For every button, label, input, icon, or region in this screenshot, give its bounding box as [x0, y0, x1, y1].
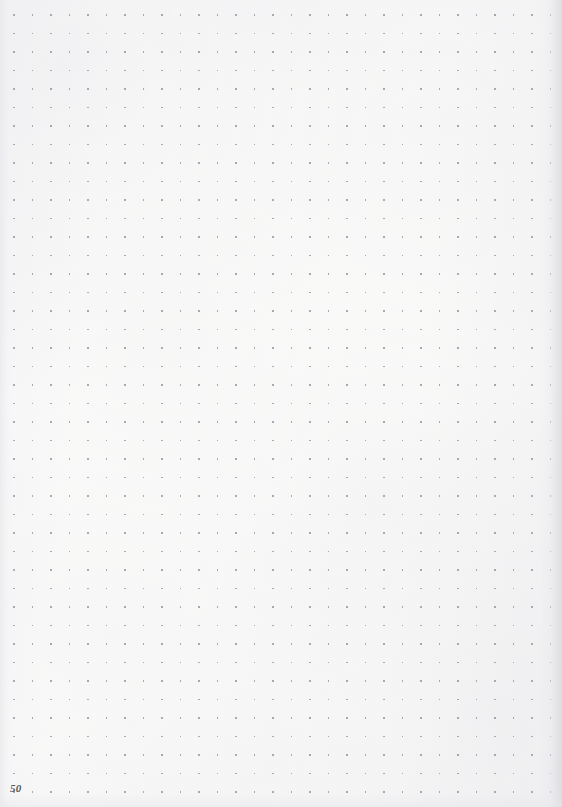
grid-dot — [124, 255, 126, 257]
grid-dot — [198, 514, 200, 516]
grid-dot — [87, 199, 89, 201]
grid-dot — [439, 773, 441, 775]
grid-dot — [309, 662, 311, 664]
grid-dot — [180, 384, 182, 386]
grid-dot — [420, 70, 422, 72]
grid-dot — [291, 717, 293, 719]
grid-dot — [180, 51, 182, 53]
grid-dot — [13, 329, 15, 331]
grid-dot — [143, 366, 145, 368]
grid-dot — [513, 181, 515, 183]
grid-dot — [420, 347, 422, 349]
grid-dot — [13, 292, 15, 294]
grid-dot — [143, 125, 145, 127]
grid-dot — [161, 625, 163, 627]
grid-dot — [217, 125, 219, 127]
grid-dot — [124, 144, 126, 146]
grid-dot — [457, 458, 459, 460]
grid-dot — [402, 347, 404, 349]
grid-dot — [198, 458, 200, 460]
grid-dot — [513, 199, 515, 201]
grid-dot — [365, 199, 367, 201]
grid-dot — [291, 625, 293, 627]
grid-dot — [198, 736, 200, 738]
grid-dot — [143, 347, 145, 349]
grid-dot — [161, 458, 163, 460]
grid-dot — [50, 255, 52, 257]
grid-dot — [50, 218, 52, 220]
grid-dot — [124, 70, 126, 72]
grid-dot — [124, 736, 126, 738]
grid-dot — [13, 403, 15, 405]
grid-dot — [235, 717, 237, 719]
grid-dot — [50, 754, 52, 756]
grid-dot — [550, 292, 552, 294]
grid-dot — [476, 532, 478, 534]
grid-dot — [476, 125, 478, 127]
grid-dot — [235, 754, 237, 756]
grid-dot — [50, 606, 52, 608]
grid-dot — [69, 477, 71, 479]
grid-dot — [457, 791, 459, 793]
grid-dot — [69, 458, 71, 460]
grid-dot — [346, 514, 348, 516]
grid-dot — [235, 458, 237, 460]
grid-dot — [457, 477, 459, 479]
grid-dot — [198, 495, 200, 497]
grid-dot — [87, 218, 89, 220]
grid-dot — [439, 107, 441, 109]
grid-dot — [143, 736, 145, 738]
grid-dot — [476, 347, 478, 349]
grid-dot — [476, 569, 478, 571]
grid-dot — [143, 51, 145, 53]
grid-dot — [87, 495, 89, 497]
grid-dot — [309, 366, 311, 368]
grid-dot — [32, 680, 34, 682]
grid-dot — [161, 403, 163, 405]
grid-dot — [32, 292, 34, 294]
grid-dot — [346, 551, 348, 553]
grid-dot — [235, 643, 237, 645]
grid-dot — [439, 199, 441, 201]
grid-dot — [198, 551, 200, 553]
grid-dot — [328, 606, 330, 608]
grid-dot — [272, 329, 274, 331]
grid-dot — [254, 477, 256, 479]
grid-dot — [69, 643, 71, 645]
grid-dot — [180, 107, 182, 109]
grid-dot — [513, 773, 515, 775]
grid-dot — [198, 329, 200, 331]
grid-dot — [180, 662, 182, 664]
grid-dot — [365, 273, 367, 275]
grid-dot — [383, 236, 385, 238]
grid-dot — [476, 33, 478, 35]
grid-dot — [161, 532, 163, 534]
grid-dot — [143, 310, 145, 312]
grid-dot — [161, 791, 163, 793]
grid-dot — [328, 199, 330, 201]
grid-dot — [402, 625, 404, 627]
grid-dot — [272, 310, 274, 312]
grid-dot — [124, 551, 126, 553]
grid-dot — [50, 144, 52, 146]
grid-dot — [254, 662, 256, 664]
grid-dot — [494, 680, 496, 682]
grid-dot — [550, 255, 552, 257]
grid-dot — [254, 273, 256, 275]
grid-dot — [365, 347, 367, 349]
grid-dot — [143, 588, 145, 590]
grid-dot — [161, 421, 163, 423]
grid-dot — [198, 366, 200, 368]
grid-dot — [346, 366, 348, 368]
grid-dot — [50, 680, 52, 682]
grid-dot — [180, 329, 182, 331]
grid-dot — [550, 14, 552, 16]
grid-dot — [402, 310, 404, 312]
grid-dot — [365, 88, 367, 90]
grid-dot — [383, 514, 385, 516]
grid-dot — [457, 495, 459, 497]
grid-dot — [32, 699, 34, 701]
grid-dot — [235, 699, 237, 701]
grid-dot — [272, 606, 274, 608]
grid-dot — [106, 495, 108, 497]
